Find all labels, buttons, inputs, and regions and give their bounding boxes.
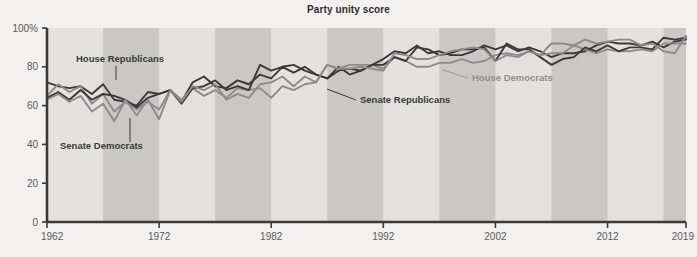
y-tick-0: 0 xyxy=(32,217,38,228)
x-tick-2002: 2002 xyxy=(484,231,507,242)
y-tick-100: 100% xyxy=(12,23,38,34)
annotation-house-democrats: House Democrats xyxy=(472,72,553,83)
chart-figure: Party unity score 020406080100%196219721… xyxy=(0,0,697,257)
annotation-senate-democrats: Senate Democrats xyxy=(60,140,143,151)
annotation-house-republicans: House Republicans xyxy=(76,53,164,64)
x-tick-1982: 1982 xyxy=(260,231,283,242)
party-unity-line-chart: 020406080100%196219721982199220022012201… xyxy=(0,0,697,257)
x-tick-2019: 2019 xyxy=(672,231,695,242)
y-tick-40: 40 xyxy=(27,139,39,150)
y-tick-20: 20 xyxy=(27,178,39,189)
y-tick-60: 60 xyxy=(27,100,39,111)
x-tick-2012: 2012 xyxy=(596,231,619,242)
annotation-senate-republicans: Senate Republicans xyxy=(360,94,450,105)
y-tick-80: 80 xyxy=(27,61,39,72)
x-tick-1972: 1972 xyxy=(148,231,171,242)
x-tick-1962: 1962 xyxy=(41,231,64,242)
x-tick-1992: 1992 xyxy=(372,231,395,242)
